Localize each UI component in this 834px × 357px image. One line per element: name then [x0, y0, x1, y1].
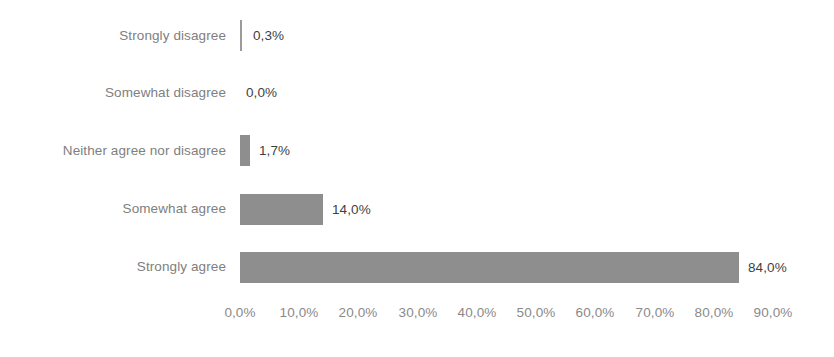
bar [240, 20, 242, 51]
bar [240, 135, 250, 166]
bar-value-label: 14,0% [332, 202, 371, 217]
x-tick-label: 60,0% [576, 305, 615, 320]
x-tick-label: 90,0% [754, 305, 793, 320]
x-tick-label: 30,0% [399, 305, 438, 320]
x-tick-label: 40,0% [458, 305, 497, 320]
category-label: Strongly disagree [0, 28, 226, 43]
x-tick-label: 70,0% [636, 305, 675, 320]
bar [240, 252, 739, 283]
category-label: Somewhat disagree [0, 85, 226, 100]
bar-value-label: 1,7% [259, 143, 290, 158]
bar-value-label: 0,3% [253, 28, 284, 43]
x-axis: 0,0% 10,0% 20,0% 30,0% 40,0% 50,0% 60,0%… [0, 305, 834, 329]
x-tick-label: 50,0% [517, 305, 556, 320]
category-label: Somewhat agree [0, 201, 226, 216]
bar-value-label: 0,0% [246, 85, 277, 100]
bar-value-label: 84,0% [748, 260, 787, 275]
category-label: Neither agree nor disagree [0, 143, 226, 158]
x-tick-label: 20,0% [339, 305, 378, 320]
bar [240, 194, 323, 225]
x-tick-label: 10,0% [280, 305, 319, 320]
bar-chart: Strongly disagree Somewhat disagree Neit… [0, 0, 834, 357]
x-tick-label: 80,0% [695, 305, 734, 320]
category-label: Strongly agree [0, 259, 226, 274]
x-tick-label: 0,0% [224, 305, 255, 320]
